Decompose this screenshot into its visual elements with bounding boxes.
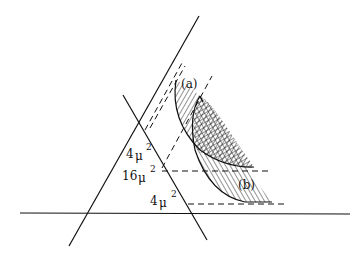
- label-region-b: (b): [238, 178, 255, 192]
- label-middle-exp: 2: [150, 164, 156, 174]
- label-middle-mu: μ: [138, 171, 146, 185]
- baseline: [20, 213, 350, 214]
- label-upper-4: 4: [126, 147, 134, 161]
- label-lower-exp: 2: [171, 189, 177, 199]
- long-diagonal-line: [69, 16, 199, 246]
- label-lower-4: 4: [150, 194, 158, 208]
- label-lower-mu: μ: [159, 196, 167, 210]
- label-middle-16: 16: [122, 169, 137, 183]
- label-region-a: (a): [181, 77, 198, 91]
- dalitz-boundary-diagram: (a) (b) 4 μ 2 16 μ 2 4 μ 2: [0, 0, 363, 257]
- label-upper-mu: μ: [135, 149, 143, 163]
- label-upper-exp: 2: [146, 142, 152, 152]
